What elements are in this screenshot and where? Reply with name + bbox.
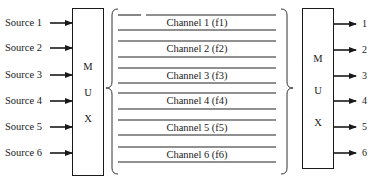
output-1-label: 1 <box>362 18 367 30</box>
output-3-label: 3 <box>362 70 367 82</box>
channel-band-lines <box>118 15 276 162</box>
channel-6-label: Channel 6 (f6) <box>118 149 276 161</box>
mux-right-letter-x: X <box>303 117 333 129</box>
mux-left-box: M U X <box>72 8 104 176</box>
mux-left-letter-x: X <box>73 113 103 125</box>
mux-right-letter-u: U <box>303 85 333 97</box>
channel-2-label: Channel 2 (f2) <box>118 43 276 55</box>
input-arrows <box>50 23 72 153</box>
output-2-label: 2 <box>362 44 367 56</box>
output-4-label: 4 <box>362 95 367 107</box>
channel-1-label: Channel 1 (f1) <box>118 17 276 29</box>
right-brace <box>281 9 293 174</box>
output-5-label: 5 <box>362 121 367 133</box>
mux-left-letter-m: M <box>73 61 103 73</box>
mux-right-letter-m: M <box>303 53 333 65</box>
channel-5-label: Channel 5 (f5) <box>118 122 276 134</box>
output-arrows <box>333 24 356 153</box>
output-6-label: 6 <box>362 147 367 159</box>
mux-left-letter-u: U <box>73 87 103 99</box>
mux-right-box: M U X <box>302 8 334 169</box>
channel-3-label: Channel 3 (f3) <box>118 70 276 82</box>
channel-4-label: Channel 4 (f4) <box>118 95 276 107</box>
left-brace <box>106 9 118 174</box>
